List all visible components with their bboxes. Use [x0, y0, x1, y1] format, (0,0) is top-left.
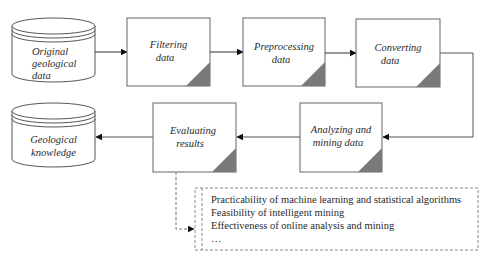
- box-converting-data: Converting data: [356, 19, 440, 87]
- node-label: data: [381, 55, 400, 66]
- node-label: data: [156, 52, 175, 63]
- note-item: Effectiveness of online analysis and min…: [211, 220, 395, 231]
- note-item: Feasibility of intelligent mining: [211, 207, 345, 218]
- dashed-arrow-evaluating-to-note: [176, 172, 194, 229]
- box-analyzing-and-mining-data: Analyzing and mining data: [300, 103, 382, 172]
- node-label: geological: [32, 58, 76, 69]
- node-label: data: [32, 70, 51, 81]
- node-label: Filtering: [149, 39, 187, 50]
- node-label: data: [272, 54, 291, 65]
- node-label: Preprocessing: [253, 41, 314, 52]
- node-label: results: [176, 138, 204, 149]
- node-label: Analyzing and: [310, 124, 372, 135]
- node-label: Geological: [30, 134, 77, 145]
- note-item: Practicability of machine learning and s…: [211, 194, 461, 205]
- box-preprocessing-data: Preprocessing data: [243, 18, 325, 86]
- flowchart-canvas: Original geological data Filtering data …: [0, 0, 486, 261]
- box-filtering-data: Filtering data: [127, 18, 210, 86]
- cylinder-original-geological-data: Original geological data: [12, 18, 95, 82]
- node-label: mining data: [313, 137, 363, 148]
- node-label: Evaluating: [169, 125, 216, 136]
- node-label: Original: [32, 46, 68, 57]
- note-evaluation-criteria: Practicability of machine learning and s…: [195, 188, 478, 250]
- node-label: knowledge: [31, 147, 76, 158]
- box-evaluating-results: Evaluating results: [153, 103, 236, 172]
- cylinder-geological-knowledge: Geological knowledge: [12, 103, 95, 167]
- node-label: Converting: [374, 42, 421, 53]
- note-item: …: [211, 233, 222, 244]
